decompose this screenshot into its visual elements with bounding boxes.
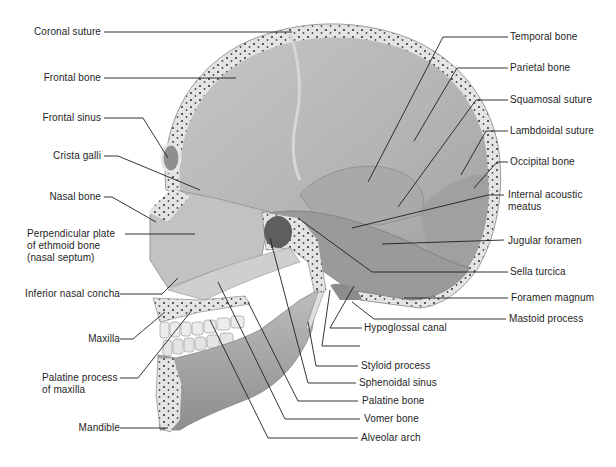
label-internal-acoustic-meatus-line2: meatus bbox=[508, 201, 583, 213]
label-hypoglossal-canal: Hypoglossal canal bbox=[364, 322, 447, 334]
label-alveolar-arch: Alveolar arch bbox=[361, 432, 421, 444]
label-parietal-bone: Parietal bone bbox=[510, 62, 570, 74]
label-perpendicular-plate-line1: Perpendicular plate bbox=[27, 228, 115, 240]
label-squamosal-suture: Squamosal suture bbox=[510, 94, 592, 106]
label-crista-galli: Crista galli bbox=[53, 150, 101, 162]
label-frontal-bone: Frontal bone bbox=[44, 72, 101, 84]
label-internal-acoustic-meatus: Internal acoustic meatus bbox=[508, 189, 583, 213]
label-inferior-nasal-concha: Inferior nasal concha bbox=[25, 288, 120, 300]
label-lambdoidal-suture: Lambdoidal suture bbox=[510, 125, 594, 137]
frontal-sinus-shape bbox=[162, 144, 180, 172]
label-palatine-bone: Palatine bone bbox=[362, 395, 424, 407]
label-palatine-process-line2: of maxilla bbox=[42, 384, 118, 396]
label-sphenoidal-sinus: Sphenoidal sinus bbox=[359, 377, 437, 389]
label-palatine-process-line1: Palatine process bbox=[42, 372, 118, 384]
label-occipital-bone: Occipital bone bbox=[510, 156, 575, 168]
label-vomer-bone: Vomer bone bbox=[364, 413, 419, 425]
label-mastoid-process: Mastoid process bbox=[509, 313, 583, 325]
sphenoidal-sinus-shape bbox=[264, 216, 292, 248]
label-coronal-suture: Coronal suture bbox=[34, 26, 101, 38]
label-perpendicular-plate-line2: of ethmoid bone bbox=[27, 240, 115, 252]
label-sella-turcica: Sella turcica bbox=[510, 266, 566, 278]
label-styloid-process: Styloid process bbox=[361, 360, 430, 372]
label-foramen-magnum: Foramen magnum bbox=[511, 292, 594, 304]
label-frontal-sinus: Frontal sinus bbox=[42, 112, 101, 124]
skull-sagittal-diagram: Coronal suture Frontal bone Frontal sinu… bbox=[0, 0, 616, 467]
label-nasal-bone: Nasal bone bbox=[49, 191, 101, 203]
label-mandible: Mandible bbox=[79, 422, 120, 434]
label-temporal-bone: Temporal bone bbox=[510, 31, 577, 43]
label-perpendicular-plate: Perpendicular plate of ethmoid bone (nas… bbox=[27, 228, 115, 264]
label-jugular-foramen: Jugular foramen bbox=[508, 235, 582, 247]
label-palatine-process: Palatine process of maxilla bbox=[42, 372, 118, 396]
label-perpendicular-plate-line3: (nasal septum) bbox=[27, 252, 115, 264]
label-internal-acoustic-meatus-line1: Internal acoustic bbox=[508, 189, 583, 201]
label-maxilla: Maxilla bbox=[88, 333, 120, 345]
